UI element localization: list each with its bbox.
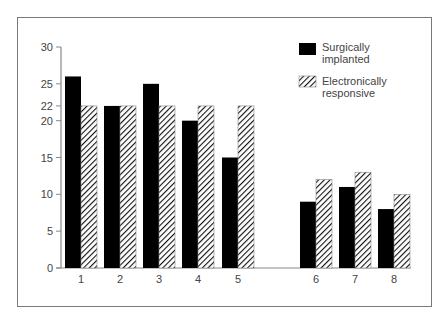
bar-surgically-implanted-6 (300, 202, 316, 268)
bar-electronically-responsive-5 (238, 106, 254, 268)
x-tick-label: 6 (313, 273, 319, 285)
legend-label-surgically-implanted-2: implanted (322, 53, 370, 65)
legend-label-electronically-responsive-1: Electronically (322, 75, 387, 87)
legend-swatch-electronically-responsive (299, 76, 316, 87)
bar-surgically-implanted-4 (182, 121, 198, 268)
bar-electronically-responsive-7 (355, 172, 371, 268)
bar-electronically-responsive-8 (394, 194, 410, 268)
bar-electronically-responsive-6 (316, 180, 332, 268)
x-tick-label: 2 (117, 273, 123, 285)
bar-chart: 05101520222530 12345678 Surgically impla… (0, 0, 448, 326)
y-tick-label: 30 (41, 41, 53, 53)
legend: Surgically implanted Electronically resp… (299, 41, 387, 99)
bar-surgically-implanted-7 (339, 187, 355, 268)
bar-electronically-responsive-1 (81, 106, 97, 268)
x-axis-labels: 12345678 (78, 273, 397, 285)
x-tick-label: 3 (156, 273, 162, 285)
x-tick-label: 5 (235, 273, 241, 285)
x-tick-label: 1 (78, 273, 84, 285)
bar-electronically-responsive-4 (198, 106, 214, 268)
bar-surgically-implanted-3 (143, 84, 159, 268)
bars (65, 76, 410, 268)
bar-electronically-responsive-2 (120, 106, 136, 268)
legend-label-electronically-responsive-2: responsive (322, 87, 375, 99)
bar-surgically-implanted-8 (378, 209, 394, 268)
bar-surgically-implanted-5 (222, 158, 238, 269)
y-tick-label: 15 (41, 152, 53, 164)
x-tick-label: 7 (352, 273, 358, 285)
bar-electronically-responsive-3 (159, 106, 175, 268)
y-tick-label: 25 (41, 78, 53, 90)
bar-surgically-implanted-1 (65, 76, 81, 268)
y-tick-label: 0 (47, 262, 53, 274)
y-tick-label: 10 (41, 188, 53, 200)
x-tick-label: 4 (195, 273, 201, 285)
legend-swatch-surgically-implanted (299, 43, 316, 55)
x-tick-label: 8 (391, 273, 397, 285)
bar-surgically-implanted-2 (104, 106, 120, 268)
y-tick-label: 22 (41, 100, 53, 112)
legend-label-surgically-implanted-1: Surgically (322, 41, 370, 53)
y-tick-label: 20 (41, 115, 53, 127)
y-tick-label: 5 (47, 225, 53, 237)
